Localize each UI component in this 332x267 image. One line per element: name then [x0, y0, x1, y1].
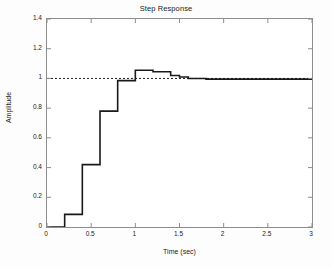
x-tick-label: 0.5	[75, 230, 105, 237]
y-tick-label: 0.8	[12, 103, 42, 110]
y-tick-label: 1.4	[12, 14, 42, 21]
y-tick-label: 0.2	[12, 192, 42, 199]
y-tick-label: 0.4	[12, 163, 42, 170]
step-response-series	[47, 70, 312, 227]
x-tick-label: 0	[31, 230, 61, 237]
y-tick-label: 1.2	[12, 44, 42, 51]
y-tick-label: 0.6	[12, 133, 42, 140]
axis-tickmarks	[47, 19, 312, 227]
x-tick-label: 2.5	[252, 230, 282, 237]
y-tick-label: 1	[12, 73, 42, 80]
chart-plot	[47, 19, 312, 227]
figure: Step Response Amplitude 00.20.40.60.811.…	[0, 0, 332, 267]
x-tick-label: 3	[296, 230, 326, 237]
y-axis-label: Amplitude	[5, 78, 12, 138]
plot-area	[46, 18, 313, 228]
x-tick-label: 1	[119, 230, 149, 237]
x-axis-label: Time (sec)	[46, 248, 313, 255]
x-tick-label: 1.5	[164, 230, 194, 237]
x-tick-label: 2	[208, 230, 238, 237]
y-tick-label: 0	[12, 222, 42, 229]
chart-title: Step Response	[0, 4, 332, 13]
